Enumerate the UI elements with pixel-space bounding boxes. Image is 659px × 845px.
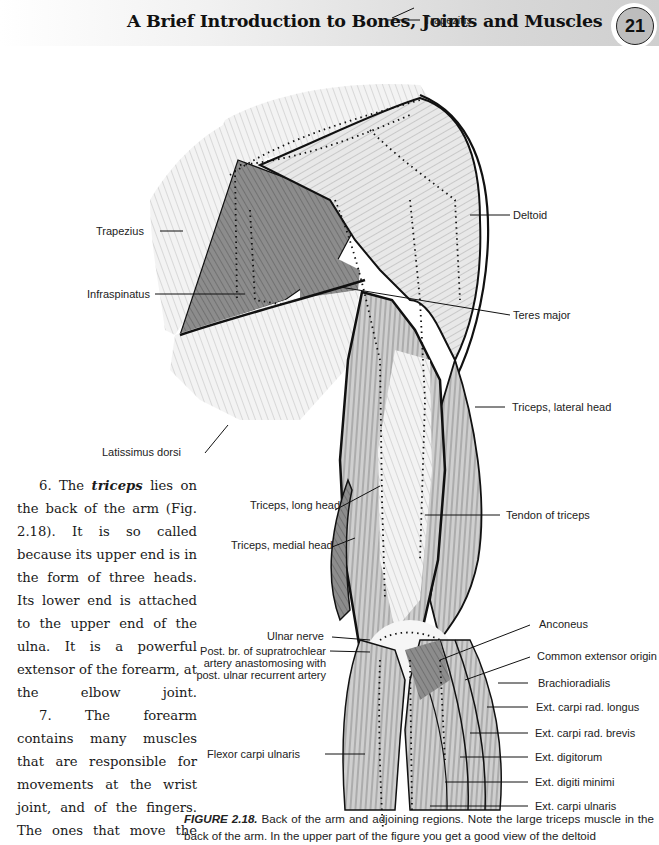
label-trapezius-top: Trapezius	[424, 14, 472, 26]
label-triceps-long-head: Triceps, long head	[250, 499, 340, 511]
label-flexor-carpi-ulnaris: Flexor carpi ulnaris	[207, 748, 300, 760]
figure-number: FIGURE 2.18.	[184, 812, 258, 825]
label-post-br-artery-anastomosing: artery anastomosing with	[196, 657, 326, 669]
label-triceps-lateral-head: Triceps, lateral head	[512, 401, 611, 413]
label-post-ulnar-recurrent-artery: post. ulnar recurrent artery	[180, 669, 326, 681]
label-latissimus-dorsi: Latissimus dorsi	[102, 446, 181, 458]
term-triceps: triceps	[92, 478, 143, 493]
label-ext-digiti-minimi: Ext. digiti minimi	[535, 776, 614, 788]
label-ext-digitorum: Ext. digitorum	[535, 751, 602, 763]
label-triceps-medial-head: Triceps, medial head	[231, 539, 333, 551]
label-tendon-of-triceps: Tendon of triceps	[506, 509, 590, 521]
label-post-br-supratrochlear: Post. br. of supratrochlear	[196, 645, 326, 657]
label-trapezius-left: Trapezius	[96, 225, 144, 237]
label-infraspinatus: Infraspinatus	[87, 288, 150, 300]
label-common-extensor-origin: Common extensor origin	[537, 650, 657, 662]
figure-caption: FIGURE 2.18. Back of the arm and adjoini…	[184, 810, 654, 844]
label-ext-carpi-rad-brevis: Ext. carpi rad. brevis	[535, 727, 635, 739]
para6-number: 6. The	[39, 478, 92, 493]
label-teres-major: Teres major	[513, 309, 570, 321]
label-ext-carpi-rad-longus: Ext. carpi rad. longus	[536, 701, 639, 713]
para6-text: lies on the back of the arm (Fig. 2.18).…	[17, 478, 197, 700]
label-deltoid: Deltoid	[513, 209, 547, 221]
label-ulnar-nerve: Ulnar nerve	[267, 630, 324, 642]
label-brachioradialis: Brachioradialis	[538, 677, 610, 689]
para7-text: 7. The forearm contains many muscles tha…	[17, 708, 197, 845]
label-anconeus: Anconeus	[539, 618, 588, 630]
paragraph-6: 6. The triceps lies on the back of the a…	[17, 474, 197, 704]
body-text-column: 6. The triceps lies on the back of the a…	[17, 474, 197, 845]
paragraph-7: 7. The forearm contains many muscles tha…	[17, 704, 197, 845]
